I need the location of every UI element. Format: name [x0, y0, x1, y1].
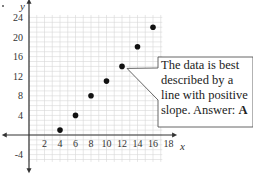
data-point	[88, 93, 94, 99]
svg-text:4: 4	[58, 138, 63, 149]
callout-answer-prefix: slope. Answer:	[161, 103, 235, 117]
callout-answer: A	[238, 103, 247, 117]
svg-text:8: 8	[89, 138, 94, 149]
callout-line-3: line with positive	[161, 88, 253, 103]
data-point	[73, 113, 79, 119]
svg-text:16: 16	[148, 138, 158, 149]
callout-line-1: The data is best	[161, 58, 253, 73]
svg-text:12: 12	[117, 138, 127, 149]
callout-line-4: slope. Answer: A	[161, 103, 253, 118]
data-point	[119, 64, 125, 70]
data-point	[104, 78, 110, 84]
svg-text:10: 10	[102, 138, 112, 149]
svg-text:4: 4	[18, 110, 23, 121]
svg-text:2: 2	[42, 138, 47, 149]
svg-text:6: 6	[73, 138, 78, 149]
svg-text:18: 18	[164, 138, 174, 149]
svg-text:-4: -4	[15, 149, 23, 160]
stray-bullet	[2, 5, 4, 7]
svg-text:14: 14	[133, 138, 143, 149]
svg-text:20: 20	[13, 32, 23, 43]
svg-text:16: 16	[13, 51, 23, 62]
svg-text:24: 24	[13, 12, 23, 23]
svg-text:8: 8	[18, 90, 23, 101]
data-point	[150, 24, 156, 30]
data-point	[57, 127, 63, 133]
data-point	[135, 44, 141, 50]
callout-line-2: described by a	[161, 73, 253, 88]
callout-text: The data is best described by a line wit…	[161, 58, 253, 118]
x-axis-label: x	[179, 140, 185, 152]
svg-text:12: 12	[13, 71, 23, 82]
y-axis-label: y	[19, 0, 25, 12]
